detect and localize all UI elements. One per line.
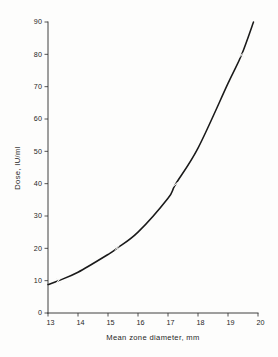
y-tick-label: 90 bbox=[34, 17, 42, 26]
data-point-marker bbox=[115, 246, 120, 251]
x-tick-label: 15 bbox=[107, 318, 115, 327]
x-tick-label: 18 bbox=[197, 318, 205, 327]
x-tick-label: 19 bbox=[227, 318, 235, 327]
dose-response-chart: 0102030405060708090 1314151617181920 Mea… bbox=[0, 0, 278, 357]
data-point-marker bbox=[173, 182, 178, 187]
dose-response-curve bbox=[48, 22, 254, 285]
data-point-markers bbox=[56, 53, 244, 283]
x-tick-label: 20 bbox=[257, 318, 265, 327]
x-tick-label: 17 bbox=[167, 318, 175, 327]
figure-page: 0102030405060708090 1314151617181920 Mea… bbox=[0, 0, 278, 357]
y-axis-ticks bbox=[45, 22, 49, 313]
x-tick-label: 14 bbox=[77, 318, 85, 327]
y-tick-label: 30 bbox=[34, 211, 42, 220]
y-tick-label: 60 bbox=[34, 114, 42, 123]
y-tick-label: 40 bbox=[34, 179, 42, 188]
y-tick-label: 80 bbox=[34, 50, 42, 59]
y-tick-label: 20 bbox=[34, 244, 42, 253]
y-tick-label: 10 bbox=[34, 276, 42, 285]
x-axis-ticks bbox=[48, 313, 258, 317]
y-tick-label: 0 bbox=[38, 308, 42, 317]
y-axis-title: Dose, IU/ml bbox=[13, 146, 22, 190]
x-tick-label: 16 bbox=[137, 318, 145, 327]
x-tick-label: 13 bbox=[47, 318, 55, 327]
y-tick-label: 70 bbox=[34, 82, 42, 91]
axes-group bbox=[48, 22, 258, 313]
x-axis-tick-labels: 1314151617181920 bbox=[47, 318, 265, 327]
x-axis-title: Mean zone diameter, mm bbox=[106, 333, 199, 342]
y-axis-tick-labels: 0102030405060708090 bbox=[34, 17, 42, 317]
y-tick-label: 50 bbox=[34, 147, 42, 156]
